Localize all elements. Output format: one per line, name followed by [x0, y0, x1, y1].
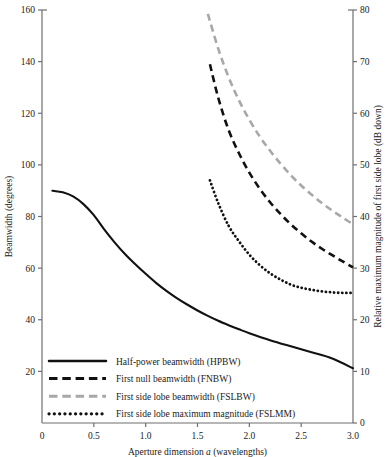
- y-tick-label-right: 50: [360, 160, 370, 170]
- y-axis-title-right: Relative maximum magnitude of first side…: [373, 105, 384, 328]
- y-tick-label-left: 20: [26, 367, 36, 377]
- legend-label-3: First side lobe maximum magnitude (FSLMM…: [116, 409, 295, 420]
- beamwidth-chart: 204060801001201401600102030405060708000.…: [0, 0, 389, 457]
- y-tick-label-right: 40: [360, 212, 370, 222]
- y-tick-label-left: 140: [21, 57, 36, 67]
- chart-figure: 204060801001201401600102030405060708000.…: [0, 0, 389, 457]
- x-tick-label: 0: [40, 431, 45, 441]
- y-tick-label-left: 80: [26, 212, 36, 222]
- x-tick-label: 1.5: [192, 431, 204, 441]
- y-tick-label-right: 80: [360, 5, 370, 15]
- x-tick-label: 3.0: [347, 431, 359, 441]
- x-tick-label: 2.5: [295, 431, 307, 441]
- y-tick-label-left: 120: [21, 109, 36, 119]
- x-tick-label: 0.5: [88, 431, 100, 441]
- y-axis-title-left: Beamwidth (degrees): [4, 176, 15, 258]
- y-tick-label-right: 0: [360, 418, 365, 428]
- x-tick-label: 2.0: [243, 431, 255, 441]
- y-tick-label-left: 160: [21, 5, 36, 15]
- y-tick-label-left: 60: [26, 264, 36, 274]
- y-tick-label-right: 70: [360, 57, 370, 67]
- legend-label-2: First side lobe beamwidth (FSLBW): [116, 392, 255, 403]
- x-axis-title: Aperture dimension a (wavelengths): [128, 447, 267, 457]
- y-tick-label-right: 10: [360, 367, 370, 377]
- x-tick-label: 1.0: [140, 431, 152, 441]
- y-tick-label-right: 30: [360, 264, 370, 274]
- y-tick-label-right: 60: [360, 109, 370, 119]
- legend-label-0: Half-power beamwidth (HPBW): [116, 357, 241, 368]
- legend-label-1: First null beamwidth (FNBW): [116, 374, 231, 385]
- y-tick-label-left: 40: [26, 315, 36, 325]
- chart-background: [0, 0, 389, 457]
- y-tick-label-right: 20: [360, 315, 370, 325]
- y-tick-label-left: 100: [21, 160, 36, 170]
